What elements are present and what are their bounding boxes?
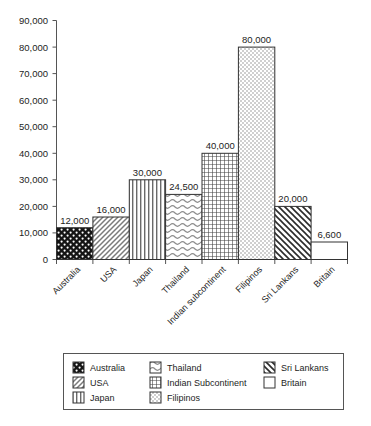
y-tick-label: 0 <box>43 254 48 265</box>
y-tick-label: 10,000 <box>19 227 48 238</box>
legend-swatch-thailand <box>150 362 161 373</box>
legend-swatch-sri-lankans <box>264 362 275 373</box>
legend-label-filipinos: Filipinos <box>167 393 201 403</box>
legend-item-filipinos[interactable]: Filipinos <box>150 392 201 403</box>
bar-usa[interactable] <box>93 217 129 260</box>
bar-value-label: 40,000 <box>206 140 235 151</box>
bar-thailand[interactable] <box>166 194 202 259</box>
legend-item-sri-lankans[interactable]: Sri Lankans <box>264 362 329 373</box>
y-tick-label: 80,000 <box>19 42 48 53</box>
y-tick-label: 40,000 <box>19 148 48 159</box>
bar-japan[interactable] <box>129 180 165 260</box>
bar-britain[interactable] <box>311 242 347 260</box>
legend-item-australia[interactable]: Australia <box>73 362 125 373</box>
legend-label-sri-lankans: Sri Lankans <box>281 363 329 373</box>
bar-value-label: 20,000 <box>278 193 307 204</box>
legend-label-japan: Japan <box>90 393 115 403</box>
bar-filipinos[interactable] <box>238 47 274 259</box>
bar-value-label: 80,000 <box>242 34 271 45</box>
y-tick-label: 70,000 <box>19 68 48 79</box>
bar-chart-figure: 90,000 80,000 70,000 60,000 50,000 40,00… <box>0 0 371 426</box>
legend-swatch-filipinos <box>150 392 161 403</box>
y-tick-label: 60,000 <box>19 95 48 106</box>
legend-label-britain: Britain <box>281 378 307 388</box>
chart-legend: Australia USA Japan Thailand <box>64 354 344 410</box>
bar-indian-subcontinent[interactable] <box>202 153 238 259</box>
legend-swatch-indian-subcontinent <box>150 377 161 388</box>
legend-swatch-britain <box>264 377 275 388</box>
bar-sri-lankans[interactable] <box>275 206 311 259</box>
legend-swatch-japan <box>73 392 84 403</box>
y-tick-label: 50,000 <box>19 121 48 132</box>
bar-value-label: 6,600 <box>317 229 341 240</box>
bar-value-label: 16,000 <box>97 204 126 215</box>
bar-value-label: 30,000 <box>133 167 162 178</box>
y-tick-label: 30,000 <box>19 174 48 185</box>
y-tick-label: 90,000 <box>19 15 48 26</box>
legend-label-indian-subcontinent: Indian Subcontinent <box>167 378 247 388</box>
legend-swatch-australia <box>73 362 84 373</box>
legend-label-australia: Australia <box>90 363 125 373</box>
legend-item-thailand[interactable]: Thailand <box>150 362 202 373</box>
bar-value-label: 24,500 <box>169 181 198 192</box>
legend-item-japan[interactable]: Japan <box>73 392 115 403</box>
legend-label-thailand: Thailand <box>167 363 202 373</box>
legend-swatch-usa <box>73 377 84 388</box>
bar-australia[interactable] <box>57 228 93 260</box>
legend-item-usa[interactable]: USA <box>73 377 109 388</box>
y-tick-label: 20,000 <box>19 201 48 212</box>
bar-value-label: 12,000 <box>60 215 89 226</box>
legend-label-usa: USA <box>90 378 109 388</box>
chart-canvas: 90,000 80,000 70,000 60,000 50,000 40,00… <box>0 0 371 426</box>
legend-item-britain[interactable]: Britain <box>264 377 307 388</box>
